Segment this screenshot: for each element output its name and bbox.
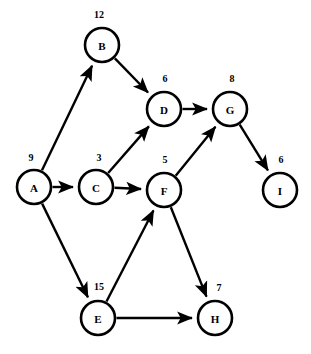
weights-layer: 91236155876 [29,9,284,293]
node-label-a: A [30,182,38,194]
nodes-layer: ABCDEFGHI [17,28,297,335]
node-label-c: C [92,182,100,194]
node-d[interactable]: D [147,92,181,126]
edge-c-to-d [108,126,149,173]
node-a[interactable]: A [17,170,51,204]
node-label-e: E [94,313,101,325]
edge-a-to-b [42,66,92,171]
edge-f-to-g [176,127,216,176]
weight-label-a: 9 [29,152,34,163]
node-g[interactable]: G [213,92,247,126]
node-e[interactable]: E [81,301,115,335]
weight-label-b: 12 [94,9,104,20]
edge-f-to-h [171,207,207,296]
edge-e-to-f [106,210,153,301]
weight-label-i: 6 [279,154,284,165]
node-label-i: I [278,185,282,197]
weight-label-f: 5 [163,154,168,165]
node-label-b: B [98,40,106,52]
weight-label-e: 15 [94,281,104,292]
weight-label-d: 6 [163,73,168,84]
edge-g-to-i [240,125,268,171]
edge-b-to-d [115,58,148,92]
node-label-g: G [226,104,235,116]
graph-diagram: ABCDEFGHI 91236155876 [0,0,311,354]
weight-label-g: 8 [230,73,235,84]
node-label-h: H [211,313,220,325]
node-c[interactable]: C [79,170,113,204]
node-i[interactable]: I [263,173,297,207]
node-f[interactable]: F [147,173,181,207]
node-label-f: F [161,185,168,197]
weight-label-h: 7 [217,282,222,293]
edge-a-to-e [42,204,88,298]
weight-label-c: 3 [97,152,102,163]
graph-svg: ABCDEFGHI 91236155876 [0,0,311,354]
edge-c-to-f [114,188,141,189]
node-label-d: D [160,104,168,116]
node-h[interactable]: H [198,301,232,335]
node-b[interactable]: B [85,28,119,62]
